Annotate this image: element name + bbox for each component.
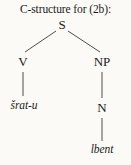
tree-node-n: N bbox=[86, 101, 118, 114]
branch-s-to-v bbox=[25, 31, 56, 52]
tree-node-v: V bbox=[8, 55, 38, 68]
syntax-tree: S V NP N šrat-u lbent bbox=[0, 0, 131, 165]
tree-node-s: S bbox=[47, 18, 77, 31]
c-structure-figure: C-structure for (2b): S V NP N šrat-u lb… bbox=[0, 0, 131, 165]
branch-s-to-np bbox=[68, 31, 100, 52]
tree-leaf-sratu: šrat-u bbox=[0, 99, 48, 111]
tree-node-np: NP bbox=[86, 55, 118, 68]
tree-leaf-lbent: lbent bbox=[77, 143, 127, 155]
